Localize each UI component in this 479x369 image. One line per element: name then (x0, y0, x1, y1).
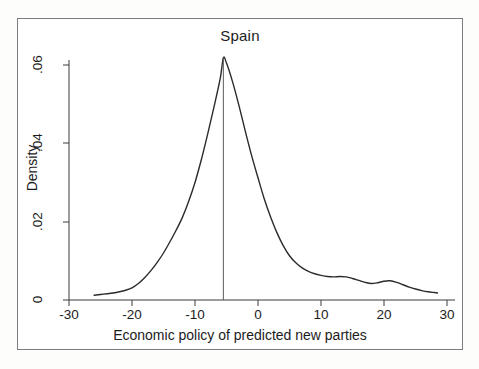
y-tick-label: .06 (30, 45, 45, 85)
density-curve (94, 57, 437, 295)
x-tick-label: 30 (427, 307, 467, 322)
x-axis-ticks (69, 300, 447, 306)
figure-container: Spain -30 -20 -10 0 10 20 30 0 . (0, 0, 479, 369)
x-axis-title: Economic policy of predicted new parties (17, 327, 463, 343)
x-tick-label: -20 (112, 307, 152, 322)
x-tick-label: -10 (175, 307, 215, 322)
x-tick-label: -30 (49, 307, 89, 322)
y-axis-ticks (63, 65, 69, 300)
y-tick-label: 0 (30, 280, 45, 320)
x-tick-label: 10 (301, 307, 341, 322)
y-axis-title: Density (24, 123, 40, 213)
x-tick-label: 20 (364, 307, 404, 322)
x-tick-label: 0 (238, 307, 278, 322)
